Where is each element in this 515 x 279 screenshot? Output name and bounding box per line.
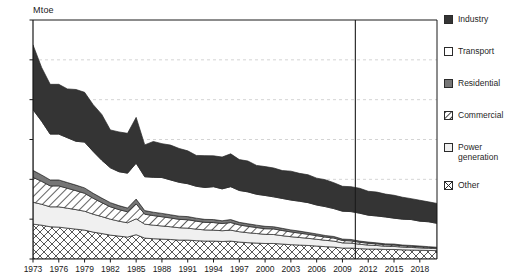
plot-canvas [0,0,440,279]
legend-item-other[interactable]: Other [444,180,479,190]
legend-item-transport[interactable]: Transport [444,46,494,56]
industry-swatch-icon [444,15,453,24]
legend-item-industry[interactable]: Industry [444,14,488,24]
stacked-area-chart: Mtoe [0,0,440,279]
legend-item-label: Industry [458,14,488,24]
commercial-swatch-icon [444,111,453,120]
transport-swatch-icon [444,47,453,56]
legend-item-label: Residential [458,78,500,88]
chart-screenshot: Mtoe [0,0,515,279]
area-bands [33,45,437,259]
legend-item-power-generation[interactable]: Power generation [444,142,498,162]
legend-item-label: Power generation [458,142,498,162]
legend-item-label: Other [458,180,479,190]
legend-item-label: Commercial [458,110,503,120]
legend-item-label: Transport [458,46,494,56]
x-axis-tick-label: 2018 [405,265,435,274]
residential-swatch-icon [444,79,453,88]
other-swatch-icon [444,181,453,190]
legend-item-commercial[interactable]: Commercial [444,110,503,120]
power-generation-swatch-icon [444,143,453,152]
legend-item-residential[interactable]: Residential [444,78,500,88]
